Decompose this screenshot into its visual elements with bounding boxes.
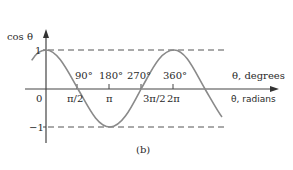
y-tick-label-1: 1: [35, 45, 41, 56]
y-axis-label: cos θ: [7, 31, 33, 42]
rad-label-pi-half: π/2: [67, 93, 83, 104]
deg-label-360: 360°: [163, 70, 187, 81]
rad-label-3pi-half: 3π/2: [143, 93, 166, 104]
figure-caption: (b): [136, 144, 150, 155]
x-axis-arrow-icon: [270, 86, 279, 92]
rad-label-2pi: 2π: [167, 93, 180, 104]
deg-label-180: 180°: [99, 70, 123, 81]
deg-label-270: 270°: [127, 70, 151, 81]
y-axis-arrow-icon: [43, 29, 49, 38]
deg-label-90: 90°: [75, 70, 93, 81]
origin-label: 0: [36, 93, 42, 104]
cosine-chart: cos θ 1 −1 0 90° 180° 270° 360° π/2 π 3π…: [0, 0, 293, 170]
y-tick-label-neg1: −1: [29, 122, 44, 133]
rad-label-pi: π: [106, 93, 113, 104]
x-axis-label-degrees: θ, degrees: [232, 70, 285, 81]
x-axis-label-radians: θ, radians: [231, 94, 276, 104]
